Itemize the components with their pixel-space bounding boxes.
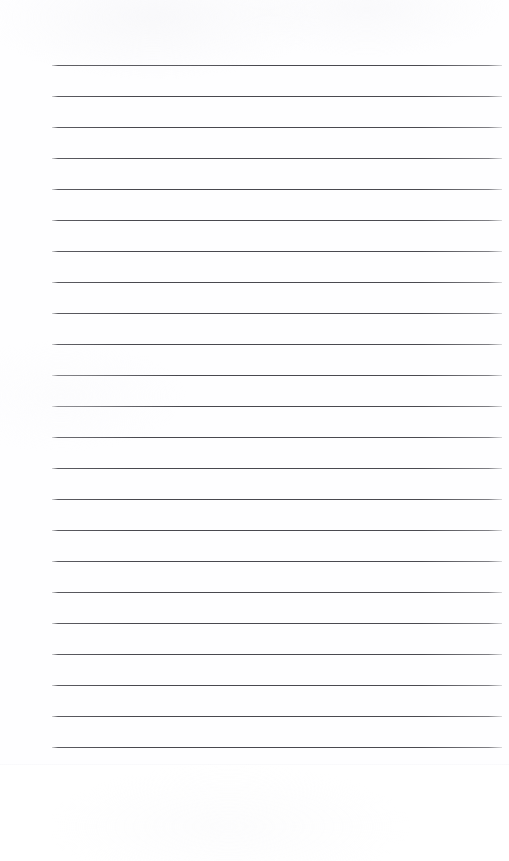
- rule-line-12: [52, 406, 502, 407]
- rule-line-21: [52, 685, 502, 686]
- ruled-lines-group: [0, 0, 509, 765]
- rule-line-4: [52, 158, 502, 159]
- rule-line-18: [52, 592, 502, 593]
- rule-line-20: [52, 654, 502, 655]
- rule-line-10: [52, 344, 502, 345]
- rule-line-23: [52, 747, 502, 748]
- rule-line-6: [52, 220, 502, 221]
- rule-line-22: [52, 716, 502, 717]
- scan-bed-below-sheet: [0, 765, 509, 861]
- rule-line-5: [52, 189, 502, 190]
- scanned-page: [0, 0, 509, 861]
- rule-line-13: [52, 437, 502, 438]
- rule-line-2: [52, 96, 502, 97]
- rule-line-19: [52, 623, 502, 624]
- rule-line-16: [52, 530, 502, 531]
- rule-line-1: [52, 65, 502, 66]
- rule-line-15: [52, 499, 502, 500]
- rule-line-9: [52, 313, 502, 314]
- rule-line-7: [52, 251, 502, 252]
- rule-line-11: [52, 375, 502, 376]
- rule-line-3: [52, 127, 502, 128]
- rule-line-8: [52, 282, 502, 283]
- rule-line-14: [52, 468, 502, 469]
- rule-line-17: [52, 561, 502, 562]
